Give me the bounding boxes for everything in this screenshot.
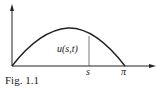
y-axis-arrow-icon <box>10 4 14 11</box>
curve-label: u(s,t) <box>57 43 79 55</box>
tick-pi: π <box>121 66 127 77</box>
x-axis-arrow-icon <box>149 64 156 68</box>
tick-s: s <box>86 66 90 77</box>
figure-caption: Fig. 1.1 <box>5 74 39 86</box>
